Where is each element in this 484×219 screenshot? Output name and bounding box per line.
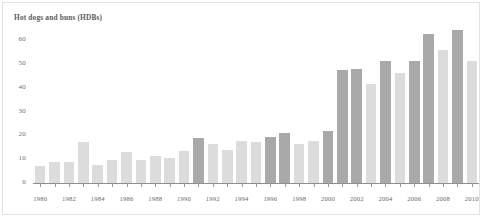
bar[interactable] bbox=[107, 160, 118, 183]
x-axis-tick-label: 2004 bbox=[378, 195, 392, 202]
x-axis-tick bbox=[127, 183, 128, 187]
x-axis-tick-label: 2006 bbox=[407, 195, 421, 202]
x-axis-tick bbox=[457, 183, 458, 187]
bar[interactable] bbox=[279, 133, 290, 183]
bar[interactable] bbox=[351, 69, 362, 183]
x-axis-tick bbox=[414, 183, 415, 187]
y-axis-tick-label: 30 bbox=[19, 107, 26, 115]
chart-frame: Hot dogs and buns (HDBs) 0102030405060 1… bbox=[2, 2, 480, 215]
y-axis-tick-label: 50 bbox=[19, 59, 26, 67]
bar-series bbox=[33, 25, 479, 183]
bar[interactable] bbox=[150, 156, 161, 183]
bar[interactable] bbox=[323, 131, 334, 183]
x-axis-tick bbox=[112, 183, 113, 187]
x-axis-tick bbox=[270, 183, 271, 187]
bar[interactable] bbox=[49, 162, 60, 183]
x-axis-tick bbox=[170, 183, 171, 187]
x-axis-tick bbox=[371, 183, 372, 187]
bar[interactable] bbox=[164, 158, 175, 183]
x-axis-tick bbox=[213, 183, 214, 187]
x-axis-tick bbox=[472, 183, 473, 187]
x-axis-tick bbox=[184, 183, 185, 187]
x-axis-tick bbox=[357, 183, 358, 187]
y-axis-tick-label: 20 bbox=[19, 130, 26, 138]
bar[interactable] bbox=[179, 151, 190, 183]
x-axis-tick-label: 1994 bbox=[235, 195, 249, 202]
bar[interactable] bbox=[467, 61, 478, 183]
bar[interactable] bbox=[121, 152, 132, 183]
x-axis-tick-label: 2000 bbox=[321, 195, 335, 202]
bar[interactable] bbox=[236, 141, 247, 183]
bar[interactable] bbox=[222, 150, 233, 183]
x-axis-tick-label: 1996 bbox=[263, 195, 277, 202]
x-axis-tick-label: 1988 bbox=[148, 195, 162, 202]
x-axis-tick bbox=[227, 183, 228, 187]
bar[interactable] bbox=[337, 70, 348, 183]
y-axis-tick-label: 10 bbox=[19, 154, 26, 162]
x-axis-tick bbox=[342, 183, 343, 187]
bar[interactable] bbox=[193, 138, 204, 183]
x-axis-tick bbox=[55, 183, 56, 187]
x-axis-tick bbox=[328, 183, 329, 187]
x-axis-tick bbox=[256, 183, 257, 187]
x-axis-tick bbox=[443, 183, 444, 187]
x-axis-tick bbox=[400, 183, 401, 187]
x-axis-tick bbox=[429, 183, 430, 187]
x-axis-tick bbox=[141, 183, 142, 187]
chart-screenshot: Hot dogs and buns (HDBs) 0102030405060 1… bbox=[0, 0, 484, 219]
bar[interactable] bbox=[64, 162, 75, 183]
x-axis-tick-label: 1986 bbox=[120, 195, 134, 202]
bar[interactable] bbox=[423, 34, 434, 183]
bar[interactable] bbox=[265, 137, 276, 183]
y-axis-tick-label: 40 bbox=[19, 83, 26, 91]
y-axis-tick-label: 60 bbox=[19, 35, 26, 43]
bar[interactable] bbox=[409, 61, 420, 183]
x-axis-tick-label: 1992 bbox=[206, 195, 220, 202]
bar[interactable] bbox=[92, 165, 103, 183]
x-axis-tick bbox=[198, 183, 199, 187]
bar[interactable] bbox=[395, 73, 406, 183]
x-axis-tick-label: 1998 bbox=[292, 195, 306, 202]
bar[interactable] bbox=[452, 30, 463, 183]
bar[interactable] bbox=[251, 142, 262, 183]
x-axis-tick-label: 2002 bbox=[350, 195, 364, 202]
x-axis-tick-label: 1990 bbox=[177, 195, 191, 202]
x-axis-tick bbox=[98, 183, 99, 187]
bar[interactable] bbox=[380, 61, 391, 183]
x-axis-tick bbox=[155, 183, 156, 187]
chart-title: Hot dogs and buns (HDBs) bbox=[14, 13, 102, 22]
x-axis-tick-label: 1982 bbox=[62, 195, 76, 202]
bar[interactable] bbox=[438, 50, 449, 183]
bar[interactable] bbox=[308, 141, 319, 183]
bar[interactable] bbox=[78, 142, 89, 183]
x-axis-tick bbox=[83, 183, 84, 187]
x-axis-tick bbox=[40, 183, 41, 187]
x-axis-tick bbox=[314, 183, 315, 187]
x-axis-tick bbox=[69, 183, 70, 187]
bar[interactable] bbox=[136, 160, 147, 183]
x-axis-tick-label: 1980 bbox=[33, 195, 47, 202]
x-axis-tick bbox=[385, 183, 386, 187]
x-axis-tick bbox=[285, 183, 286, 187]
x-axis-tick-label: 2010 bbox=[465, 195, 479, 202]
bar[interactable] bbox=[35, 166, 46, 183]
x-axis-tick bbox=[299, 183, 300, 187]
x-axis-tick bbox=[242, 183, 243, 187]
bar[interactable] bbox=[366, 84, 377, 183]
bar[interactable] bbox=[208, 144, 219, 183]
x-axis-tick-label: 1984 bbox=[91, 195, 105, 202]
y-axis-tick-label: 0 bbox=[22, 178, 26, 186]
bar[interactable] bbox=[294, 144, 305, 183]
x-axis-tick-label: 2008 bbox=[436, 195, 450, 202]
